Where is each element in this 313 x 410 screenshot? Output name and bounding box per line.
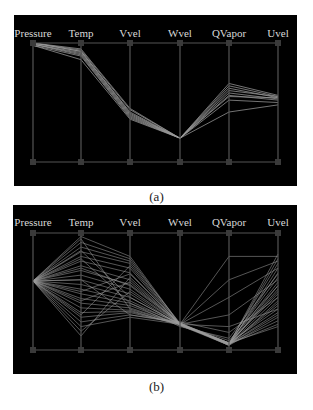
axis-handle[interactable] bbox=[275, 159, 281, 165]
axis-handle[interactable] bbox=[177, 159, 183, 165]
parallel-coordinates-plot-b bbox=[13, 205, 297, 374]
chart-panel-a: Pressure Temp Vvel Wvel QVapor Uvel bbox=[14, 15, 297, 186]
axis-handle[interactable] bbox=[30, 159, 36, 165]
axis-handle[interactable] bbox=[78, 230, 84, 236]
axis-handle[interactable] bbox=[177, 347, 183, 353]
axis-handle[interactable] bbox=[177, 230, 183, 236]
axis-handle[interactable] bbox=[30, 347, 36, 353]
caption-a: (a) bbox=[0, 190, 313, 203]
axis-handle[interactable] bbox=[78, 347, 84, 353]
axis-handle[interactable] bbox=[275, 347, 281, 353]
axis-handle[interactable] bbox=[226, 40, 232, 46]
parallel-coordinates-plot-a bbox=[14, 15, 297, 186]
axis-handle[interactable] bbox=[275, 230, 281, 236]
axis-handle[interactable] bbox=[226, 347, 232, 353]
axis-handle[interactable] bbox=[127, 347, 133, 353]
axis-handle[interactable] bbox=[78, 159, 84, 165]
axis-handle[interactable] bbox=[127, 230, 133, 236]
caption-b: (b) bbox=[0, 380, 313, 393]
axis-handle[interactable] bbox=[127, 159, 133, 165]
axis-handle[interactable] bbox=[78, 40, 84, 46]
axis-handle[interactable] bbox=[275, 40, 281, 46]
axis-handle[interactable] bbox=[226, 159, 232, 165]
axis-handle[interactable] bbox=[226, 230, 232, 236]
axis-handle[interactable] bbox=[177, 40, 183, 46]
axis-handle[interactable] bbox=[30, 230, 36, 236]
axis-handle[interactable] bbox=[127, 40, 133, 46]
axis-handle[interactable] bbox=[30, 40, 36, 46]
chart-panel-b: Pressure Temp Vvel Wvel QVapor Uvel bbox=[13, 205, 297, 374]
